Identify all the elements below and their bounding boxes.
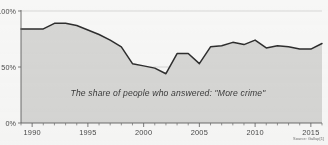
x-tick-label: 1995: [79, 128, 96, 137]
y-tick-label: 100%: [0, 7, 16, 16]
x-tick-label: 1990: [24, 128, 41, 137]
series-annotation-label: The share of people who answered: "More …: [71, 88, 267, 98]
y-tick-label: 50%: [1, 63, 16, 72]
x-tick-label: 2005: [191, 128, 208, 137]
source-note: Source: Gallup[1]: [293, 136, 324, 141]
x-tick-label: 2000: [135, 128, 152, 137]
x-tick-label: 2010: [246, 128, 263, 137]
y-tick-label: 0%: [5, 119, 16, 128]
crime-perception-chart: 0%50%100% 199019952000200520102015 The s…: [0, 0, 328, 145]
chart-svg: 0%50%100% 199019952000200520102015 The s…: [0, 0, 328, 145]
